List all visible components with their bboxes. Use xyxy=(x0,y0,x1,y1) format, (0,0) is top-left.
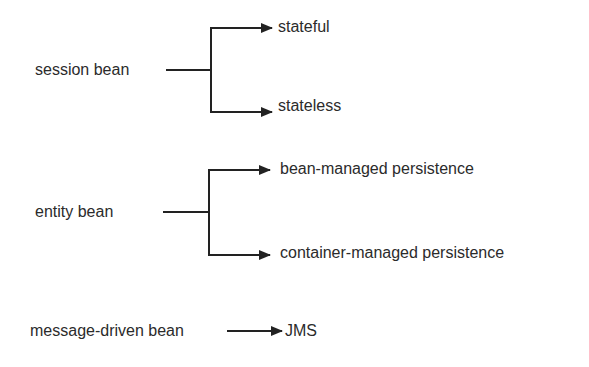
jms-label: JMS xyxy=(285,322,317,340)
session-bean-label: session bean xyxy=(35,61,129,79)
container-managed-persistence-label: container-managed persistence xyxy=(280,244,504,262)
entity-bean-label: entity bean xyxy=(35,203,113,221)
stateful-label: stateful xyxy=(278,18,330,36)
stateless-label: stateless xyxy=(278,97,341,115)
bean-managed-persistence-label: bean-managed persistence xyxy=(280,160,474,178)
connector-lines xyxy=(0,0,589,367)
message-driven-bean-label: message-driven bean xyxy=(30,322,184,340)
